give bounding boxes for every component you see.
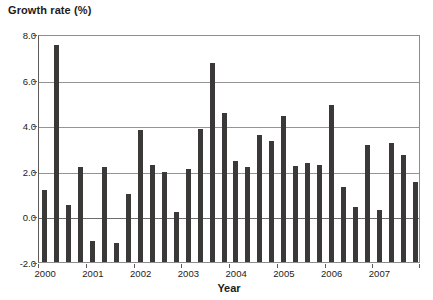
y-tick-label: 0.0 [2,212,36,223]
bar [329,105,334,262]
y-tick-label: 6.0 [2,75,36,86]
x-tick-label: 2003 [178,268,199,279]
bar [150,165,155,262]
x-tick-label: 2007 [369,268,390,279]
bar [389,143,394,262]
bar [114,243,119,262]
bar [222,113,227,262]
bar [90,241,95,262]
bar [413,182,418,262]
bar [210,63,215,263]
bar [365,145,370,262]
bar [66,205,71,262]
bar [245,167,250,262]
y-tick-mark [33,217,37,218]
bar [281,116,286,262]
bar [233,161,238,262]
x-tick-label: 2001 [82,268,103,279]
y-tick-label: 8.0 [2,30,36,41]
y-tick-mark [33,35,37,36]
y-axis-tick-labels: 8.06.04.02.00.0-2.0 [0,35,36,263]
y-axis-title: Growth rate (%) [8,4,91,16]
bar [341,187,346,262]
bar [269,141,274,262]
x-tick-label: 2006 [321,268,342,279]
bar [78,167,83,262]
bar [257,135,262,262]
x-tick-label: 2002 [130,268,151,279]
bar [54,45,59,262]
bar [377,210,382,262]
bar [353,207,358,262]
y-tick-mark [33,263,37,264]
bar [293,166,298,262]
x-tick-label: 2000 [35,268,56,279]
bar [102,167,107,262]
y-tick-mark [33,81,37,82]
bar [317,165,322,262]
bar [305,163,310,262]
y-tick-mark [33,172,37,173]
growth-rate-bar-chart: Growth rate (%) 8.06.04.02.00.0-2.0 2000… [0,0,433,300]
y-tick-label: 4.0 [2,121,36,132]
y-tick-label: -2.0 [2,258,36,269]
bar [162,172,167,262]
y-tick-mark [33,126,37,127]
x-tick-mark [419,264,420,268]
x-axis-tick-labels: 20002001200220032004200520062007 [38,264,420,282]
bar [401,155,406,262]
bar [198,129,203,262]
y-tick-label: 2.0 [2,166,36,177]
x-tick-label: 2004 [226,268,247,279]
bar [186,169,191,262]
plot-area [38,35,420,263]
x-axis-title: Year [38,282,420,294]
bar [42,190,47,262]
x-tick-label: 2005 [273,268,294,279]
bar [126,194,131,262]
bar [138,130,143,262]
bars-layer [39,36,419,262]
bar [174,212,179,262]
